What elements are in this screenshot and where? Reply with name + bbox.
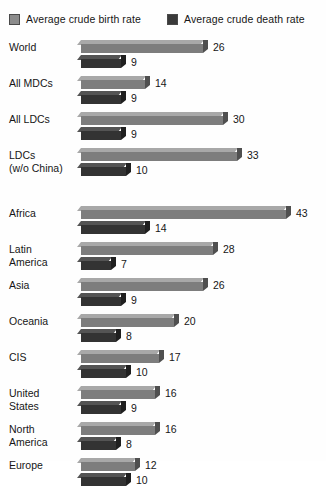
- category-label: Europe: [9, 459, 75, 472]
- category-label: Africa: [9, 207, 75, 220]
- bar-end-cap: [203, 278, 208, 291]
- bar-value-label: 8: [126, 438, 132, 450]
- bar-birth-rate: [77, 458, 140, 471]
- bar-birth-rate: [77, 386, 160, 399]
- bar-value-label: 26: [213, 279, 225, 291]
- bar-end-cap: [121, 127, 126, 140]
- category-label: All MDCs: [9, 77, 75, 90]
- row-bars: 309: [77, 110, 326, 146]
- bar-death-rate: [77, 365, 131, 378]
- bar-value-label: 17: [169, 351, 181, 363]
- bar-front-face: [81, 333, 116, 342]
- chart-row: North America168: [0, 420, 326, 456]
- chart-row: Africa4314: [0, 204, 326, 240]
- bar-front-face: [81, 282, 203, 291]
- bar-front-face: [81, 477, 126, 486]
- chart-row: Asia269: [0, 276, 326, 312]
- category-label: All LDCs: [9, 113, 75, 126]
- bar-group-regions: Africa4314Latin America287Asia269Oceania…: [0, 204, 326, 490]
- row-bars: 1210: [77, 456, 326, 490]
- bar-value-label: 33: [247, 149, 259, 161]
- bar-front-face: [81, 225, 145, 234]
- row-bars: 269: [77, 276, 326, 312]
- bar-front-face: [81, 369, 126, 378]
- chart-row: All LDCs309: [0, 110, 326, 146]
- bar-end-cap: [126, 163, 131, 176]
- category-label: World: [9, 41, 75, 54]
- bar-end-cap: [121, 91, 126, 104]
- bar-birth-rate: [77, 422, 160, 435]
- bar-death-rate: [77, 437, 121, 450]
- bar-end-cap: [223, 112, 228, 125]
- bar-death-rate: [77, 329, 121, 342]
- bar-death-rate: [77, 127, 126, 140]
- bar-front-face: [81, 441, 116, 450]
- bar-front-face: [81, 297, 121, 306]
- bar-end-cap: [126, 365, 131, 378]
- row-bars: 168: [77, 420, 326, 456]
- category-label: North America: [9, 423, 75, 448]
- bar-value-label: 9: [131, 92, 137, 104]
- bar-end-cap: [121, 401, 126, 414]
- bar-front-face: [81, 131, 121, 140]
- bar-end-cap: [213, 242, 218, 255]
- bar-front-face: [81, 261, 111, 270]
- bar-value-label: 16: [165, 387, 177, 399]
- row-bars: 1710: [77, 348, 326, 384]
- bar-value-label: 30: [233, 113, 245, 125]
- category-label: CIS: [9, 351, 75, 364]
- bar-front-face: [81, 116, 223, 125]
- bar-end-cap: [203, 40, 208, 53]
- bar-end-cap: [159, 350, 164, 363]
- bar-death-rate: [77, 163, 131, 176]
- category-label: Latin America: [9, 243, 75, 268]
- bar-front-face: [81, 44, 203, 53]
- legend-label-death-rate: Average crude death rate: [184, 13, 305, 25]
- bar-front-face: [81, 246, 213, 255]
- row-bars: 208: [77, 312, 326, 348]
- bar-death-rate: [77, 257, 116, 270]
- bar-end-cap: [145, 221, 150, 234]
- chart-row: LDCs (w/o China)3310: [0, 146, 326, 182]
- bar-death-rate: [77, 55, 126, 68]
- bar-front-face: [81, 354, 159, 363]
- row-bars: 169: [77, 384, 326, 420]
- bar-end-cap: [286, 206, 291, 219]
- bar-birth-rate: [77, 40, 208, 53]
- group-separator: [0, 182, 326, 204]
- bar-end-cap: [155, 422, 160, 435]
- legend-swatch-icon-birth-rate: [9, 14, 20, 25]
- bar-end-cap: [116, 329, 121, 342]
- bar-value-label: 9: [131, 294, 137, 306]
- bar-end-cap: [126, 473, 131, 486]
- bar-front-face: [81, 80, 145, 89]
- legend-item-birth-rate: Average crude birth rate: [9, 13, 141, 25]
- bar-front-face: [81, 390, 155, 399]
- bar-birth-rate: [77, 76, 150, 89]
- category-label: LDCs (w/o China): [9, 149, 75, 174]
- bar-front-face: [81, 318, 174, 327]
- bar-birth-rate: [77, 112, 228, 125]
- chart-row: All MDCs149: [0, 74, 326, 110]
- legend-swatch-icon-death-rate: [167, 14, 178, 25]
- bar-value-label: 10: [136, 474, 148, 486]
- bar-end-cap: [116, 437, 121, 450]
- chart-row: Latin America287: [0, 240, 326, 276]
- chart-row: World269: [0, 38, 326, 74]
- bar-end-cap: [121, 293, 126, 306]
- bar-value-label: 10: [136, 366, 148, 378]
- bar-value-label: 16: [165, 423, 177, 435]
- chart-row: Oceania208: [0, 312, 326, 348]
- row-bars: 3310: [77, 146, 326, 182]
- bar-end-cap: [121, 55, 126, 68]
- row-bars: 149: [77, 74, 326, 110]
- bar-value-label: 9: [131, 56, 137, 68]
- bar-value-label: 14: [155, 222, 167, 234]
- bar-birth-rate: [77, 206, 291, 219]
- bar-end-cap: [145, 76, 150, 89]
- bar-death-rate: [77, 293, 126, 306]
- row-bars: 269: [77, 38, 326, 74]
- bar-value-label: 8: [126, 330, 132, 342]
- bar-end-cap: [237, 148, 242, 161]
- bar-front-face: [81, 152, 237, 161]
